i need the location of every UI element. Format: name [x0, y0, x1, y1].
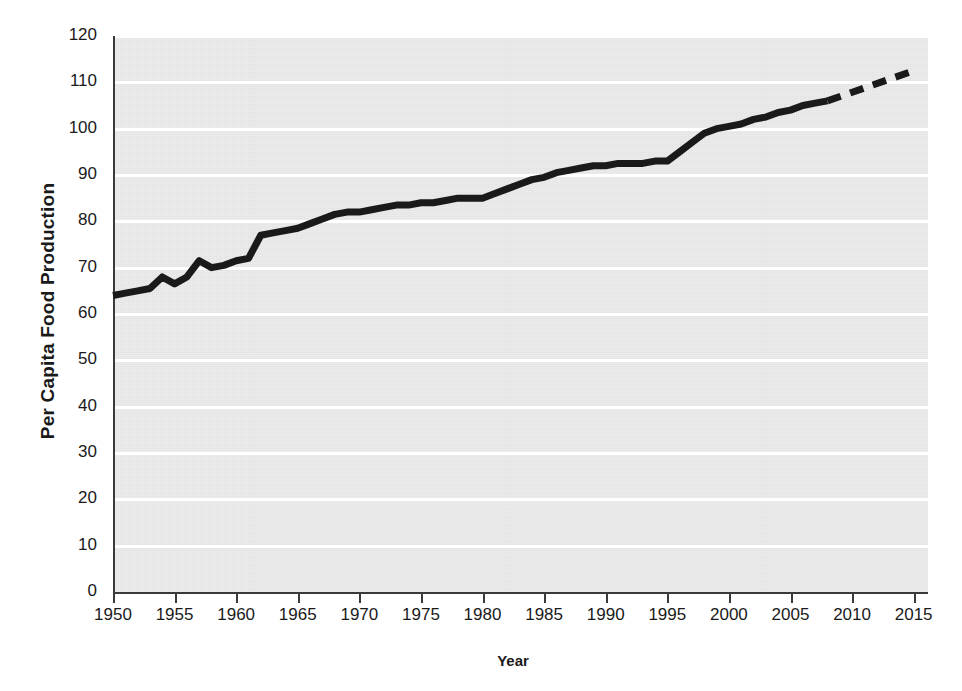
- y-tick-label-50: 50: [0, 349, 105, 369]
- gridline-110: [115, 81, 928, 84]
- x-tick-1985: [544, 592, 546, 603]
- y-tick-label-110: 110: [0, 71, 105, 91]
- gridline-40: [115, 406, 928, 409]
- y-tick-label-20: 20: [0, 488, 105, 508]
- x-tick-1990: [606, 592, 608, 603]
- gridline-120: [115, 35, 928, 38]
- x-tick-label-1980: 1980: [453, 605, 513, 625]
- x-tick-label-1975: 1975: [391, 605, 451, 625]
- y-tick-label-0: 0: [0, 581, 105, 601]
- x-tick-1995: [667, 592, 669, 603]
- y-tick-label-90: 90: [0, 164, 105, 184]
- x-axis-title: Year: [113, 652, 913, 669]
- x-tick-label-2005: 2005: [761, 605, 821, 625]
- x-tick-label-2010: 2010: [822, 605, 882, 625]
- x-tick-label-2015: 2015: [884, 605, 944, 625]
- y-tick-label-70: 70: [0, 257, 105, 277]
- x-tick-label-1970: 1970: [329, 605, 389, 625]
- gridline-60: [115, 313, 928, 316]
- y-tick-label-80: 80: [0, 210, 105, 230]
- x-tick-1950: [113, 592, 115, 603]
- x-tick-label-2000: 2000: [699, 605, 759, 625]
- gridline-90: [115, 174, 928, 177]
- plot-area: [113, 36, 928, 594]
- chart-container: Per Capita Food Production 0102030405060…: [0, 0, 962, 691]
- y-axis-tick-labels: 0102030405060708090100110120: [0, 0, 105, 691]
- x-tick-2000: [729, 592, 731, 603]
- x-tick-label-1985: 1985: [514, 605, 574, 625]
- y-tick-label-60: 60: [0, 303, 105, 323]
- x-tick-2015: [914, 592, 916, 603]
- x-tick-label-1950: 1950: [83, 605, 143, 625]
- y-tick-label-120: 120: [0, 25, 105, 45]
- y-tick-label-30: 30: [0, 442, 105, 462]
- gridline-100: [115, 128, 928, 131]
- x-tick-2005: [791, 592, 793, 603]
- gridline-80: [115, 220, 928, 223]
- x-tick-1965: [298, 592, 300, 603]
- gridline-10: [115, 545, 928, 548]
- x-tick-1980: [483, 592, 485, 603]
- x-tick-1970: [359, 592, 361, 603]
- gridline-50: [115, 359, 928, 362]
- x-tick-label-1965: 1965: [268, 605, 328, 625]
- x-tick-label-1995: 1995: [637, 605, 697, 625]
- x-tick-1955: [175, 592, 177, 603]
- gridline-20: [115, 498, 928, 501]
- y-tick-label-10: 10: [0, 535, 105, 555]
- y-tick-label-40: 40: [0, 396, 105, 416]
- x-tick-2010: [852, 592, 854, 603]
- x-tick-label-1990: 1990: [576, 605, 636, 625]
- x-tick-1960: [236, 592, 238, 603]
- x-tick-1975: [421, 592, 423, 603]
- gridline-70: [115, 267, 928, 270]
- x-tick-label-1960: 1960: [206, 605, 266, 625]
- x-tick-label-1955: 1955: [145, 605, 205, 625]
- y-tick-label-100: 100: [0, 118, 105, 138]
- gridline-30: [115, 452, 928, 455]
